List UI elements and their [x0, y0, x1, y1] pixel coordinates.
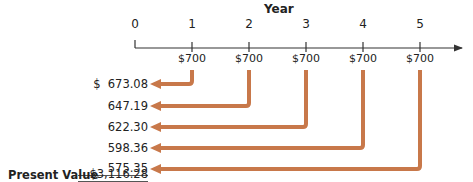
cash-flow-2: $700 [227, 52, 271, 65]
cash-flow-1: $700 [170, 52, 214, 65]
cash-flow-4: $700 [341, 52, 385, 65]
timeline-graphic [0, 0, 473, 182]
discount-arrow-5 [160, 70, 420, 169]
period-label-5: 5 [410, 17, 430, 31]
present-value-2: 647.19 [78, 99, 148, 113]
cash-flow-5: $700 [398, 52, 442, 65]
period-label-0: 0 [125, 17, 145, 31]
present-value-4: 598.36 [78, 141, 148, 155]
discount-arrow-3 [160, 70, 306, 127]
present-value-3: 622.30 [78, 120, 148, 134]
discount-arrow-1 [160, 70, 192, 84]
period-label-2: 2 [239, 17, 259, 31]
present-value-total: $3,116.28 [78, 167, 148, 182]
period-label-1: 1 [182, 17, 202, 31]
period-label-4: 4 [353, 17, 373, 31]
discount-arrow-2 [160, 70, 249, 106]
cash-flow-3: $700 [284, 52, 328, 65]
period-label-3: 3 [296, 17, 316, 31]
present-value-1: $ 673.08 [78, 77, 148, 91]
